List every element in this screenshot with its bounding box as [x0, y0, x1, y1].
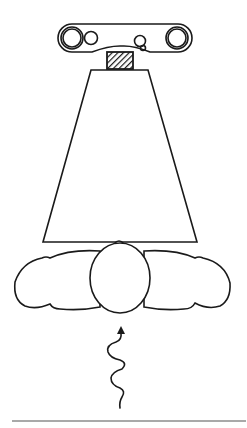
diagram: [0, 0, 247, 428]
person-head: [90, 243, 150, 313]
wavy-arrow-icon: [108, 326, 125, 408]
overhead-mount-bar: [58, 24, 192, 52]
cone-beam: [43, 70, 197, 242]
hatched-connector: [107, 52, 133, 69]
